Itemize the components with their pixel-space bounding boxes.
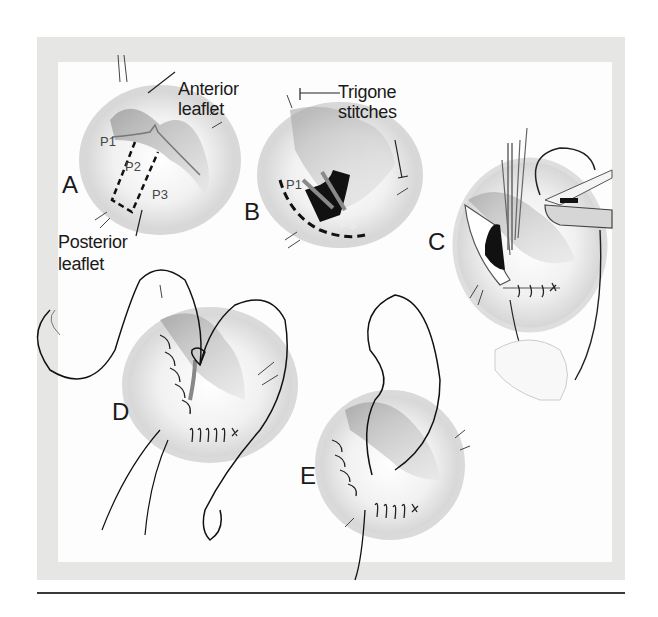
panel-e-suture: [318, 295, 470, 580]
segment-p1-b: P1: [286, 178, 302, 191]
panel-letter-e: E: [300, 464, 316, 488]
panel-letter-d: D: [112, 400, 129, 424]
horizontal-rule: [37, 592, 625, 594]
panel-c-suturing: [455, 128, 612, 400]
segment-p1-a: P1: [100, 135, 116, 148]
posterior-leaflet-label-line1: Posterior: [58, 233, 127, 251]
panel-letter-c: C: [428, 230, 445, 254]
segment-p3-b: P3: [340, 218, 356, 231]
anterior-leaflet-label-line2: leaflet: [178, 100, 224, 118]
trigone-stitches-label-line2: stitches: [338, 103, 397, 121]
segment-p3-a: P3: [152, 188, 168, 201]
posterior-leaflet-label-line2: leaflet: [58, 255, 104, 273]
trigone-stitches-label-line1: Trigone: [338, 83, 396, 101]
panel-letter-b: B: [244, 200, 260, 224]
anterior-leaflet-label-line1: Anterior: [178, 80, 239, 98]
segment-p2-a: P2: [125, 160, 141, 173]
panel-d-suture: [38, 270, 296, 540]
surgical-illustration: [0, 0, 658, 617]
panel-letter-a: A: [62, 173, 78, 197]
